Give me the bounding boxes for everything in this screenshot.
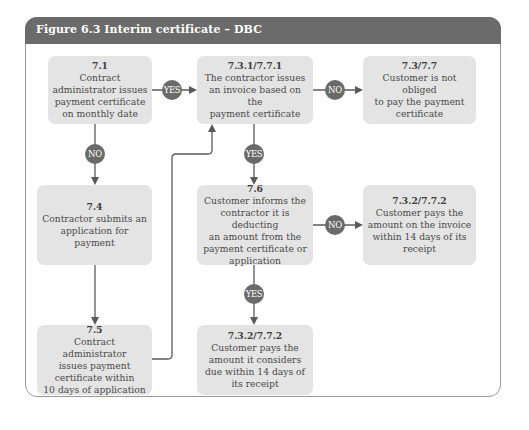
- node-ref: 7.3.1/7.7.1: [228, 60, 283, 72]
- no-badge: NO: [325, 215, 345, 235]
- node-text: Customer informs the contractor it is de…: [201, 195, 309, 267]
- node-text: Customer pays the amount it considers du…: [205, 342, 305, 390]
- node-ref: 7.5: [87, 324, 103, 336]
- node-7-5: 7.5 Contract administrator issues paymen…: [37, 325, 152, 395]
- node-7-1: 7.1 Contract administrator issues paymen…: [48, 56, 152, 124]
- node-text: The contractor issues an invoice based o…: [201, 72, 309, 120]
- node-7-3-1: 7.3.1/7.7.1 The contractor issues an inv…: [197, 56, 313, 124]
- node-text: Customer pays the amount on the invoice …: [368, 207, 472, 255]
- node-7-6: 7.6 Customer informs the contractor it i…: [197, 185, 313, 265]
- node-7-4: 7.4 Contractor submits an application fo…: [37, 185, 152, 265]
- no-badge: NO: [325, 80, 345, 100]
- node-ref: 7.3/7.7: [402, 60, 437, 72]
- node-text: Contract administrator issues payment ce…: [52, 72, 147, 120]
- node-text: Contract administrator issues payment ce…: [41, 336, 148, 396]
- node-ref: 7.3.2/7.7.2: [392, 195, 447, 207]
- no-badge: NO: [85, 144, 105, 164]
- node-ref: 7.4: [87, 201, 103, 213]
- node-text: Contractor submits an application for pa…: [42, 213, 147, 249]
- yes-badge: YES: [244, 284, 264, 304]
- yes-badge: YES: [162, 80, 182, 100]
- yes-badge: YES: [244, 144, 264, 164]
- node-ref: 7.6: [247, 183, 263, 195]
- node-7-3: 7.3/7.7 Customer is not obliged to pay t…: [363, 56, 476, 124]
- node-7-3-2-invoice: 7.3.2/7.7.2 Customer pays the amount on …: [363, 185, 476, 265]
- node-ref: 7.3.2/7.7.2: [228, 330, 283, 342]
- node-ref: 7.1: [92, 60, 108, 72]
- node-text: Customer is not obliged to pay the payme…: [367, 72, 472, 120]
- node-7-3-2-considers: 7.3.2/7.7.2 Customer pays the amount it …: [197, 325, 313, 395]
